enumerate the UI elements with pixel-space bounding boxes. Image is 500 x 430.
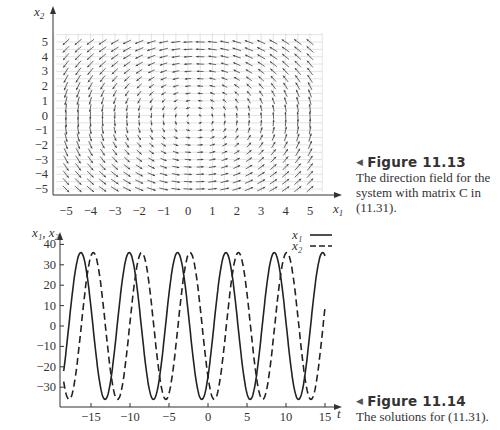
svg-text:−2: −2 (35, 138, 48, 152)
svg-text:−5: −5 (162, 410, 175, 424)
svg-text:−2: −2 (133, 204, 146, 218)
legend: x₁ x₂ (291, 227, 332, 253)
x-axis-label: x1 (332, 201, 343, 218)
svg-text:0: 0 (185, 204, 191, 218)
figure-number: ◀Figure 11.13 (356, 154, 500, 170)
svg-text:0: 0 (42, 109, 48, 123)
svg-text:10: 10 (44, 299, 57, 313)
triangle-marker-icon: ◀ (356, 396, 363, 406)
svg-text:0: 0 (50, 319, 56, 333)
direction-field-plot: −5−4−3−2−1012345 543210−1−2−3−4−5 x2 x1 (33, 4, 343, 218)
x-axis-label: t (337, 406, 341, 421)
figure-caption-11-13: ◀Figure 11.13 The direction field for th… (356, 154, 500, 215)
svg-text:−4: −4 (84, 204, 98, 218)
svg-text:1: 1 (42, 94, 48, 108)
svg-text:−10: −10 (36, 339, 56, 353)
x-tick-labels: −5−4−3−2−1012345 (59, 204, 313, 218)
svg-text:20: 20 (44, 278, 57, 292)
svg-text:−3: −3 (35, 153, 48, 167)
svg-text:−10: −10 (120, 410, 140, 424)
caption-line: (11.31). (356, 200, 500, 215)
svg-text:2: 2 (42, 79, 48, 93)
triangle-marker-icon: ◀ (356, 157, 363, 167)
caption-line: The solutions for (11.31). (356, 409, 500, 424)
svg-text:−4: −4 (35, 167, 49, 181)
svg-text:−1: −1 (157, 204, 170, 218)
legend-label-x2: x₂ (291, 238, 303, 253)
svg-text:−5: −5 (59, 204, 72, 218)
svg-text:15: 15 (319, 410, 332, 424)
svg-text:−15: −15 (81, 410, 101, 424)
y-tick-labels: 543210−1−2−3−4−5 (35, 35, 49, 196)
y-axis-arrow-icon (50, 6, 56, 14)
y-axis-label: x2 (33, 4, 45, 21)
x1-series-line (64, 253, 325, 400)
svg-text:−5: −5 (35, 182, 48, 196)
svg-text:3: 3 (42, 64, 48, 78)
svg-text:−30: −30 (36, 380, 56, 394)
figure-caption-11-14: ◀Figure 11.14 The solutions for (11.31). (356, 393, 500, 424)
svg-text:−3: −3 (108, 204, 121, 218)
y-axis-label: x₁, x₂ (31, 225, 60, 240)
svg-text:−1: −1 (35, 123, 48, 137)
svg-text:5: 5 (42, 35, 48, 49)
caption-line: system with matrix C in (356, 185, 500, 200)
svg-text:30: 30 (44, 258, 57, 272)
svg-text:5: 5 (244, 410, 250, 424)
solutions-plot: −15−10−5051015 403020100−10−20−30 x₁, x₂… (31, 225, 342, 424)
x-axis-arrow-icon (334, 192, 342, 198)
svg-text:−20: −20 (36, 360, 56, 374)
caption-line: The direction field for the (356, 170, 500, 185)
svg-text:2: 2 (234, 204, 240, 218)
svg-text:0: 0 (205, 410, 211, 424)
figure-number: ◀Figure 11.14 (356, 393, 500, 409)
svg-text:1: 1 (209, 204, 215, 218)
svg-text:4: 4 (282, 204, 289, 218)
svg-text:4: 4 (42, 50, 49, 64)
figure-canvas: −5−4−3−2−1012345 543210−1−2−3−4−5 x2 x1 … (0, 0, 500, 430)
svg-text:5: 5 (307, 204, 313, 218)
svg-text:10: 10 (280, 410, 293, 424)
x-tick-labels: −15−10−5051015 (81, 403, 331, 424)
svg-text:3: 3 (258, 204, 264, 218)
